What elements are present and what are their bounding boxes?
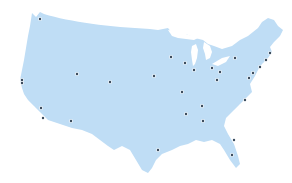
us-map: United States — [0, 0, 292, 183]
city-marker[interactable] — [233, 139, 235, 141]
city-marker[interactable] — [216, 79, 218, 81]
city-marker[interactable] — [76, 73, 78, 75]
city-marker[interactable] — [109, 81, 111, 83]
city-marker[interactable] — [244, 99, 246, 101]
city-marker[interactable] — [21, 82, 23, 84]
city-marker[interactable] — [40, 107, 42, 109]
city-marker[interactable] — [193, 69, 195, 71]
city-marker[interactable] — [211, 67, 213, 69]
map-canvas — [0, 0, 292, 183]
city-marker[interactable] — [265, 59, 267, 61]
city-marker[interactable] — [153, 75, 155, 77]
city-marker[interactable] — [21, 79, 23, 81]
city-marker[interactable] — [252, 72, 254, 74]
city-marker[interactable] — [231, 154, 233, 156]
city-marker[interactable] — [269, 52, 271, 54]
city-marker[interactable] — [259, 66, 261, 68]
city-marker[interactable] — [42, 117, 44, 119]
city-marker[interactable] — [181, 91, 183, 93]
us-landmass — [20, 12, 283, 173]
city-marker[interactable] — [184, 62, 186, 64]
city-marker[interactable] — [157, 149, 159, 151]
city-marker[interactable] — [170, 56, 172, 58]
city-marker[interactable] — [248, 77, 250, 79]
city-marker[interactable] — [234, 57, 236, 59]
city-marker[interactable] — [39, 18, 41, 20]
city-marker[interactable] — [219, 71, 221, 73]
city-marker[interactable] — [185, 113, 187, 115]
city-marker[interactable] — [70, 120, 72, 122]
city-marker[interactable] — [201, 105, 203, 107]
city-marker[interactable] — [202, 120, 204, 122]
